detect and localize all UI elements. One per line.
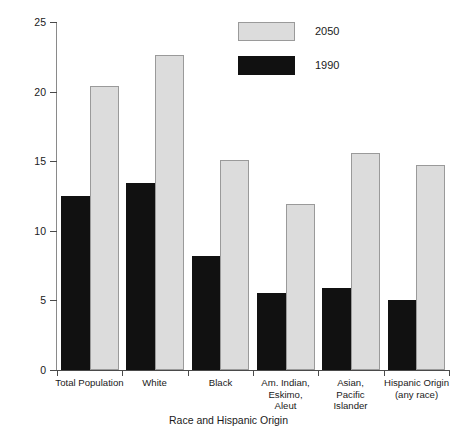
legend-label-1990: 1990 [315, 59, 339, 71]
bar-2050-total-population [90, 86, 119, 370]
bar-2050-am-indian-eskimo-aleut [286, 204, 315, 370]
bar-1990-total-population [61, 196, 90, 370]
bar-1990-hispanic-origin-any-race [388, 300, 417, 370]
x-axis-label-6: Hispanic Origin(any race) [372, 377, 457, 400]
legend-swatch-2050-icon [238, 22, 295, 41]
x-axis-group-tick [57, 370, 58, 376]
x-axis-label-line: Islander [306, 400, 395, 412]
x-axis-label-line: Hispanic Origin [372, 377, 457, 389]
y-axis-tick-label: 15 [6, 156, 46, 166]
bar-chart: Percent 0510152025 Total PopulationWhite… [0, 0, 457, 436]
y-axis-tick [50, 370, 57, 371]
x-axis-title: Race and Hispanic Origin [0, 414, 457, 426]
x-axis-group-tick [449, 370, 450, 376]
x-axis-group-tick [253, 370, 254, 376]
y-axis-tick-label: 25 [6, 17, 46, 27]
y-axis-tick [50, 92, 57, 93]
legend-label-2050: 2050 [315, 25, 339, 37]
x-axis-group-tick [122, 370, 123, 376]
bar-2050-asian-pacific-islander [351, 153, 380, 370]
bar-2050-hispanic-origin-any-race [416, 165, 445, 370]
bar-1990-black [192, 256, 221, 370]
legend-swatch-1990-icon [238, 56, 295, 75]
y-axis-tick-label: 20 [6, 87, 46, 97]
bar-2050-white [155, 55, 184, 370]
bar-1990-asian-pacific-islander [322, 288, 351, 370]
x-axis-label-line: (any race) [372, 389, 457, 401]
x-axis-group-tick [318, 370, 319, 376]
y-axis-tick-label: 0 [6, 365, 46, 375]
y-axis-tick [50, 300, 57, 301]
y-axis-tick [50, 22, 57, 23]
x-axis-group-tick [188, 370, 189, 376]
y-axis-tick [50, 161, 57, 162]
bar-2050-black [220, 160, 249, 370]
bar-1990-white [126, 183, 155, 370]
y-axis-tick-label: 5 [6, 295, 46, 305]
y-axis-tick [50, 231, 57, 232]
bar-1990-am-indian-eskimo-aleut [257, 293, 286, 370]
y-axis-tick-label: 10 [6, 226, 46, 236]
x-axis-group-tick [384, 370, 385, 376]
